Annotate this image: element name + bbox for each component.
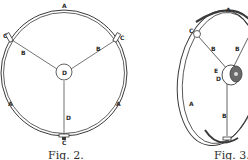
fig2-label-clamp-left: C bbox=[3, 32, 8, 39]
fig2-label-spoke-bottom: D bbox=[66, 114, 71, 121]
fig2-clamp-bottom bbox=[59, 134, 69, 137]
fig3-clamp-top bbox=[194, 31, 201, 38]
fig3-spoke-right bbox=[234, 38, 248, 66]
figure-2: A A A B B D D C C C Fig. 2. bbox=[1, 2, 127, 160]
fig3-clamp-bottom bbox=[223, 137, 231, 140]
illustration-canvas: A A A B B D D C C C Fig. 2. A C B B E D … bbox=[0, 0, 248, 160]
fig3-label-rim-top: A bbox=[226, 6, 231, 13]
fig2-label-clamp-right: C bbox=[120, 34, 125, 41]
fig3-hub-center bbox=[234, 72, 238, 76]
fig3-label-spoke-left: B bbox=[211, 45, 216, 52]
fig3-label-spoke-right: B bbox=[235, 45, 240, 52]
fig3-label-clamp-top: C bbox=[189, 27, 194, 34]
fig2-spoke-right bbox=[71, 41, 114, 69]
fig3-caption: Fig. 3. bbox=[214, 149, 248, 160]
fig2-label-rim-left: A bbox=[8, 100, 13, 107]
figure-3: A C B B E D A B Fig. 3. bbox=[169, 5, 248, 160]
fig3-label-rim-left: A bbox=[189, 100, 194, 107]
fig2-label-rim-top: A bbox=[62, 2, 67, 9]
fig2-label-hub: D bbox=[62, 69, 67, 76]
fig2-label-rim-right: A bbox=[116, 100, 121, 107]
fig2-caption: Fig. 2. bbox=[48, 149, 84, 160]
fig3-spoke-left bbox=[198, 36, 228, 70]
fig2-label-clamp-bottom: C bbox=[62, 139, 67, 146]
fig2-label-spoke-right: B bbox=[96, 45, 101, 52]
fig3-label-hub: E bbox=[214, 67, 218, 74]
fig2-spoke-left bbox=[12, 40, 57, 69]
fig3-label-spoke-bottom: B bbox=[222, 112, 227, 119]
fig2-label-spoke-left: B bbox=[21, 49, 26, 56]
fig3-label-hub-sub: D bbox=[216, 75, 221, 82]
